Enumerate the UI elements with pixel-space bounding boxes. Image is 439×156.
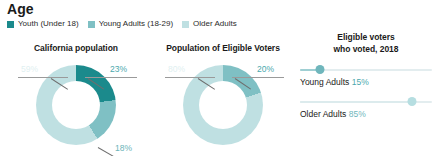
chart-title: California population [3,43,149,53]
square-swatch-icon [182,21,189,28]
legend-item-label: Older Adults [193,20,237,28]
legend-item-youth: Youth (Under 18) [7,20,79,28]
slider-young-adults[interactable] [300,64,432,75]
legend-item-label: Young Adults (18-29) [99,20,173,28]
chart-title: Eligible voters who voted, 2018 [296,32,436,55]
slider-label: Older Adults [300,109,346,119]
square-swatch-icon [88,21,95,28]
slider-value: 85% [349,109,366,119]
slider-group-older-adults: Older Adults 85% [296,96,436,119]
slider-thumb[interactable] [408,97,417,106]
slider-label: Young Adults [300,77,349,87]
leader-line-older-adults [18,77,68,78]
slider-caption-older-adults: Older Adults 85% [300,109,436,119]
donut-label-young-adults: 18% [115,143,132,153]
slider-caption-young-adults: Young Adults 15% [300,77,436,87]
square-swatch-icon [7,21,14,28]
legend-item-young-adults: Young Adults (18-29) [88,20,173,28]
leader-line-youth [85,77,137,78]
donut-label-older-adults: 59% [21,64,38,74]
slider-fill [300,101,412,103]
slider-value: 15% [352,77,369,87]
chart-title-line-2: who voted, 2018 [296,44,436,56]
chart-eligible-voters-who-voted: Eligible voters who voted, 2018 Young Ad… [296,32,436,119]
chart-legend: Youth (Under 18) Young Adults (18-29) Ol… [7,20,237,28]
donut-label-young-adults: 20% [257,64,274,74]
chart-title-line-1: Eligible voters [296,32,436,44]
legend-item-label: Youth (Under 18) [18,20,79,28]
chart-eligible-voters-population: Population of Eligible Voters 80% 20% [150,43,296,156]
leader-line-young-adults [232,77,284,78]
slider-thumb[interactable] [315,65,324,74]
donut-label-youth: 23% [110,64,127,74]
donut-chart-area: 80% 20% [150,65,296,156]
leader-line-diagonal-young-adults [98,147,114,156]
page-title: Age [7,1,34,17]
chart-california-population: California population 59% 23% 18% [3,43,149,156]
legend-item-older-adults: Older Adults [182,20,237,28]
chart-title: Population of Eligible Voters [150,43,296,53]
slider-group-young-adults: Young Adults 15% [296,64,436,87]
donut-label-older-adults: 80% [168,64,185,74]
donut-chart-area: 59% 23% 18% [3,65,149,156]
leader-line-older-adults [165,77,215,78]
slider-older-adults[interactable] [300,96,432,107]
